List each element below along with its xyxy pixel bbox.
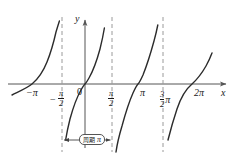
tangent-function-figure: y x 0 −π − π 2 π 2 π 3 2 π 2π 周期 π — [0, 0, 240, 162]
tick-label-two-pi: 2π — [194, 88, 204, 98]
y-axis-label: y — [75, 14, 79, 24]
tick-label-three-pi-half: 3 2 π — [160, 90, 170, 108]
tick-three-pi-half-symbol: π — [165, 94, 170, 105]
tick-pi-half-numerator: π — [108, 89, 114, 98]
period-annotation-symbol: π — [97, 135, 101, 144]
tick-pi-half-denominator: 2 — [108, 98, 114, 108]
tick-neg-pi-half-numerator: π — [58, 89, 64, 98]
tick-label-pi: π — [140, 88, 145, 98]
x-axis-label: x — [221, 88, 225, 98]
curve-branch-1 — [116, 25, 158, 152]
tick-neg-pi-half-denominator: 2 — [58, 98, 64, 108]
tick-sign-neg-pi-half: − — [50, 94, 56, 105]
period-annotation-text: 周期 — [83, 135, 95, 144]
tick-three-pi-half-fraction: 3 2 — [160, 90, 164, 108]
origin-label: 0 — [77, 87, 82, 97]
plot-canvas — [0, 0, 240, 162]
tick-label-neg-pi: −π — [26, 88, 38, 98]
tick-label-pi-half: π 2 — [108, 89, 114, 107]
tick-three-pi-half-numerator: 3 — [160, 90, 164, 99]
tick-three-pi-half-denominator: 2 — [160, 99, 164, 109]
tick-label-neg-pi-half: π 2 — [58, 89, 64, 107]
curve-branch-2 — [168, 53, 212, 140]
period-annotation-box: 周期 π — [79, 134, 105, 145]
